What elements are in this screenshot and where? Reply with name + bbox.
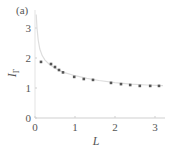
fit-curve-line — [36, 15, 163, 86]
data-point — [73, 76, 76, 79]
x-axis-label: L — [92, 134, 100, 148]
y-tick-label: 1 — [26, 82, 32, 94]
data-point — [110, 82, 113, 85]
data-point — [40, 61, 43, 64]
y-tick-label: 0 — [26, 112, 32, 124]
data-point — [92, 79, 95, 82]
data-point — [83, 78, 86, 81]
y-axis-label: IΓ — [5, 68, 21, 78]
data-point — [139, 85, 142, 88]
chart: (a) 01230123 L IΓ — [0, 0, 175, 151]
x-tick-label: 1 — [72, 121, 78, 133]
x-tick-label: 3 — [152, 121, 158, 133]
data-point — [58, 69, 61, 72]
svg-text:IΓ: IΓ — [5, 68, 21, 78]
data-points — [40, 61, 161, 88]
y-tick-label: 2 — [26, 52, 32, 64]
x-tick-label: 2 — [112, 121, 118, 133]
panel-label: (a) — [16, 4, 29, 17]
axes: 01230123 — [26, 10, 166, 133]
data-point — [62, 71, 65, 74]
data-point — [158, 85, 161, 88]
data-point — [54, 66, 57, 69]
y-tick-label: 3 — [26, 22, 32, 34]
data-point — [50, 63, 53, 66]
x-tick-label: 0 — [32, 121, 38, 133]
data-point — [120, 83, 123, 86]
data-point — [149, 85, 152, 88]
data-point — [129, 84, 132, 87]
fit-curve — [36, 15, 163, 86]
